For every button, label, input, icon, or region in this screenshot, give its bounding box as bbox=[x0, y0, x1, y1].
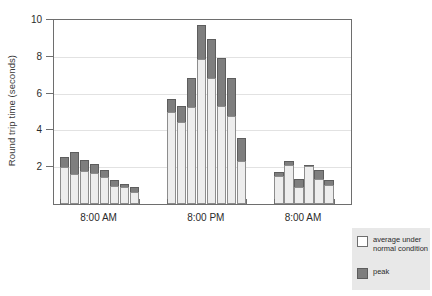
bar-segment-average bbox=[120, 187, 129, 204]
bar-segment-average bbox=[207, 78, 216, 204]
bar bbox=[197, 25, 206, 204]
y-axis-tick-mark bbox=[46, 166, 53, 167]
bar-segment-peak bbox=[207, 39, 216, 79]
x-axis-group-label: 8:00 AM bbox=[285, 212, 322, 223]
bar bbox=[177, 106, 186, 204]
chart-figure: Round trip time (seconds) 246810 8:00 AM… bbox=[0, 0, 432, 296]
bar-segment-average bbox=[60, 167, 69, 204]
bar bbox=[60, 157, 69, 204]
legend-swatch-normal-icon bbox=[357, 236, 368, 247]
chart-legend: average under normal condition peak bbox=[352, 228, 430, 290]
bar-segment-peak bbox=[70, 152, 79, 174]
x-axis-tick-mark bbox=[274, 199, 275, 204]
bar-segment-average bbox=[324, 185, 333, 204]
bar bbox=[70, 152, 79, 204]
bar bbox=[217, 58, 226, 204]
plot-area bbox=[53, 19, 352, 205]
bar bbox=[167, 99, 176, 204]
bar-segment-average bbox=[294, 187, 303, 204]
bar bbox=[227, 78, 236, 204]
bar bbox=[274, 172, 283, 204]
bar bbox=[100, 170, 109, 204]
bar bbox=[110, 180, 119, 204]
x-axis-tick-mark bbox=[334, 199, 335, 204]
bar bbox=[284, 161, 293, 204]
x-axis-tick-mark bbox=[167, 199, 168, 204]
bar bbox=[187, 78, 196, 204]
bar-segment-average bbox=[237, 161, 246, 204]
x-axis-group-label: 8:00 AM bbox=[80, 212, 117, 223]
y-axis-tick-mark bbox=[46, 129, 53, 130]
bar-segment-peak bbox=[227, 78, 236, 117]
y-axis-tick-label: 8 bbox=[0, 50, 42, 61]
bar-segment-average bbox=[187, 107, 196, 204]
bar-segment-peak bbox=[217, 58, 226, 108]
y-axis-tick-mark bbox=[46, 93, 53, 94]
bar-segment-peak bbox=[197, 25, 206, 60]
bar-segment-peak bbox=[177, 106, 186, 123]
bar bbox=[314, 170, 323, 204]
y-axis-tick-label: 2 bbox=[0, 161, 42, 172]
x-axis-tick-mark bbox=[139, 199, 140, 204]
x-axis-tick-mark bbox=[60, 199, 61, 204]
bar-segment-average bbox=[70, 174, 79, 204]
bar-segment-average bbox=[274, 176, 283, 204]
x-axis-group-label: 8:00 PM bbox=[187, 212, 224, 223]
y-axis-tick-mark bbox=[46, 56, 53, 57]
bar bbox=[120, 184, 129, 204]
legend-label-normal: average under normal condition bbox=[373, 235, 431, 253]
bar bbox=[130, 187, 139, 204]
bar-segment-average bbox=[177, 122, 186, 204]
y-axis-tick-label: 6 bbox=[0, 87, 42, 98]
y-axis-tick-label: 10 bbox=[0, 14, 42, 25]
bar bbox=[324, 180, 333, 204]
bar-segment-average bbox=[284, 165, 293, 204]
bar-segment-average bbox=[110, 186, 119, 204]
y-axis-tick-label: 4 bbox=[0, 124, 42, 135]
bar-segment-average bbox=[80, 171, 89, 204]
bar bbox=[90, 164, 99, 204]
bar bbox=[304, 165, 313, 204]
bar-segment-average bbox=[217, 106, 226, 204]
bar-segment-peak bbox=[237, 138, 246, 162]
bar bbox=[237, 138, 246, 204]
bar-segment-average bbox=[227, 116, 236, 204]
bar-segment-peak bbox=[187, 78, 196, 108]
x-axis-tick-mark bbox=[246, 199, 247, 204]
bar bbox=[207, 39, 216, 204]
y-axis-ticks: 246810 bbox=[0, 0, 53, 296]
bar-segment-average bbox=[100, 177, 109, 204]
legend-label-peak: peak bbox=[373, 267, 431, 276]
y-axis-tick-mark bbox=[46, 19, 53, 20]
bar-segment-average bbox=[314, 179, 323, 204]
bar-segment-average bbox=[90, 173, 99, 204]
bar-segment-average bbox=[167, 112, 176, 204]
bar bbox=[294, 179, 303, 204]
bar-segment-peak bbox=[167, 99, 176, 113]
bar-segment-average bbox=[130, 192, 139, 204]
legend-swatch-peak-icon bbox=[357, 268, 368, 279]
bar bbox=[80, 160, 89, 204]
plot-inner bbox=[54, 20, 351, 204]
bar-segment-average bbox=[197, 59, 206, 204]
bar-segment-average bbox=[304, 166, 313, 204]
